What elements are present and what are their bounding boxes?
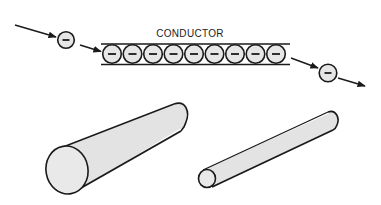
incoming-electron	[58, 32, 75, 49]
thick-cylinder	[42, 103, 187, 197]
conductor-electrons	[103, 45, 286, 64]
thin-cylinder-end	[199, 170, 216, 188]
electron	[205, 45, 224, 64]
thin-cylinder	[199, 111, 338, 187]
conductor-label: CONDUCTOR	[156, 28, 224, 39]
incoming-arrow-1	[15, 25, 56, 37]
conductor-diagram: CONDUCTOR	[0, 0, 381, 205]
electron	[103, 45, 122, 64]
outgoing-arrow-1	[291, 58, 318, 68]
electron	[267, 45, 286, 64]
electron	[123, 45, 142, 64]
outgoing-arrow-2	[338, 78, 365, 86]
electron	[246, 45, 265, 64]
electron	[226, 45, 245, 64]
incoming-arrow-2	[80, 45, 101, 52]
electron	[144, 45, 163, 64]
electron	[185, 45, 204, 64]
outgoing-electron	[319, 64, 337, 82]
electron	[164, 45, 183, 64]
